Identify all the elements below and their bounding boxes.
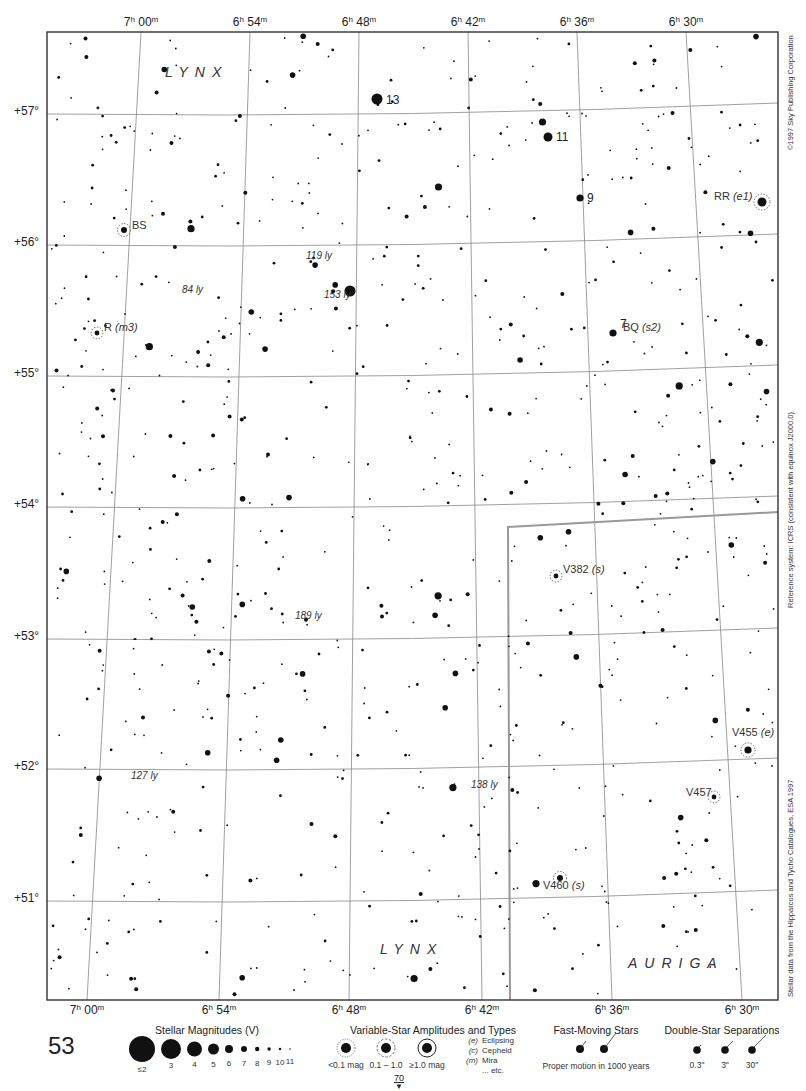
ra-label: 6h 48m (332, 1004, 367, 1016)
legend-variables-title: Variable-Star Amplitudes and Types (350, 1024, 516, 1036)
constellation-label: AURIGA (628, 956, 724, 970)
ra-label: 6h 54m (202, 1004, 237, 1016)
magnitude-label: 11 (286, 1058, 294, 1066)
star-field (50, 34, 774, 997)
ra-label: 7h 00m (124, 16, 159, 28)
amplitude-label: <0.1 mag (328, 1061, 364, 1070)
magnitude-label: 6 (227, 1060, 231, 1068)
dec-label: +52° (14, 760, 39, 772)
legend-fast-moving-caption: Proper motion in 1000 years (543, 1061, 650, 1071)
ra-label: 6h 36m (595, 1004, 630, 1016)
dec-label: +54° (14, 498, 39, 510)
chart-frame (47, 32, 778, 1000)
distance-label: 153 ly (324, 290, 351, 300)
variable-type-label: ... etc. (456, 1067, 504, 1075)
variable-star-label: BQ (s2) (623, 322, 661, 333)
distance-label: 189 ly (295, 611, 322, 621)
magnitude-label: ≤2 (138, 1066, 147, 1074)
constellation-label: LYNX (165, 65, 228, 79)
coordinate-grid (47, 32, 778, 1000)
distance-label: 119 ly (306, 251, 332, 261)
variable-star-label: V455 (e) (732, 727, 774, 738)
variable-type-label: (c)Cepheid (456, 1047, 512, 1055)
magnitude-label: 3 (169, 1062, 173, 1070)
dec-label: +57° (14, 105, 39, 117)
flamsteed-number: 11 (556, 131, 568, 143)
variable-type-label: (e)Eclipsing (456, 1037, 514, 1045)
separation-label: 0.3" (690, 1061, 705, 1070)
ra-label: 7h 00m (70, 1004, 105, 1016)
legend-magnitudes-title: Stellar Magnitudes (V) (155, 1024, 259, 1036)
dec-label: +53° (14, 630, 39, 642)
magnitude-label: 5 (211, 1061, 215, 1069)
variable-star-label: V457 (686, 787, 712, 798)
flamsteed-number: 13 (386, 94, 399, 106)
next-page-arrow-icon[interactable]: ▼ (394, 1083, 404, 1091)
amplitude-label: 0.1 – 1.0 (369, 1061, 402, 1070)
magnitude-label: 4 (192, 1061, 196, 1069)
magnitude-label: 9 (267, 1059, 271, 1067)
legend-symbols (129, 1033, 766, 1062)
variable-star-label: V460 (s) (543, 880, 585, 891)
ra-label: 6h 30m (725, 1004, 760, 1016)
dec-label: +51° (14, 892, 39, 904)
legend-fast-moving-title: Fast-Moving Stars (553, 1024, 638, 1036)
magnitude-label: 8 (255, 1060, 259, 1068)
variable-type-label: (m)Mira (456, 1057, 498, 1065)
legend-double-stars-title: Double-Star Separations (665, 1024, 780, 1036)
named-stars (91, 94, 770, 885)
ra-label: 6h 42m (465, 1004, 500, 1016)
magnitude-label: 10 (276, 1059, 285, 1067)
dec-label: +55° (14, 367, 39, 379)
reference-system-note: Reference system: ICRS (consistent with … (786, 412, 795, 608)
separation-label: 30" (746, 1061, 758, 1070)
data-source-note: Stellar data from the Hipparcos and Tych… (786, 780, 795, 998)
variable-star-label: RR (e1) (714, 191, 753, 202)
ra-label: 6h 36m (560, 16, 595, 28)
distance-label: 138 ly (471, 780, 498, 790)
ra-label: 6h 42m (451, 16, 486, 28)
distance-label: 84 ly (182, 285, 203, 295)
ra-label: 6h 48m (342, 16, 377, 28)
flamsteed-number: 9 (587, 192, 594, 204)
variable-star-label: BS (132, 220, 147, 231)
dec-label: +56° (14, 236, 39, 248)
amplitude-label: ≥1.0 mag (409, 1061, 444, 1070)
variable-star-label: R (m3) (104, 322, 138, 333)
ra-label: 6h 30m (669, 16, 704, 28)
variable-star-label: V382 (s) (563, 564, 605, 575)
ra-label: 6h 54m (233, 16, 268, 28)
separation-label: 3" (721, 1061, 729, 1070)
next-page-link[interactable]: 70 ▼ (394, 1074, 404, 1091)
magnitude-label: 7 (242, 1060, 246, 1068)
constellation-label: LYNX (380, 942, 443, 956)
distance-label: 127 ly (131, 771, 158, 781)
copyright-note: ©1997 Sky Publishing Corporation (786, 35, 795, 150)
page-number: 53 (48, 1032, 75, 1060)
